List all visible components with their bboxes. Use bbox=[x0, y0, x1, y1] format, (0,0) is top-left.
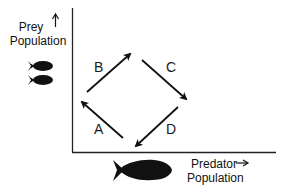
y-axis-label: Prey Population bbox=[8, 20, 68, 48]
prey-fish-icon bbox=[28, 61, 53, 85]
phase-label-a: A bbox=[94, 122, 103, 136]
x-axis-label-word1: Predator bbox=[187, 157, 244, 171]
x-axis-label-word2: Population bbox=[187, 171, 244, 185]
y-axis-label-word2: Population bbox=[8, 34, 68, 48]
x-axis-label: Predator Population bbox=[187, 157, 244, 185]
phase-label-d: D bbox=[166, 122, 176, 136]
y-axis-label-word1: Prey bbox=[8, 20, 68, 34]
phase-label-c: C bbox=[166, 60, 176, 74]
predator-prey-diagram: Prey Population Predator Population B C … bbox=[0, 0, 288, 188]
predator-fish-icon bbox=[113, 160, 172, 181]
phase-label-b: B bbox=[94, 60, 103, 74]
arrow-c bbox=[142, 60, 186, 99]
